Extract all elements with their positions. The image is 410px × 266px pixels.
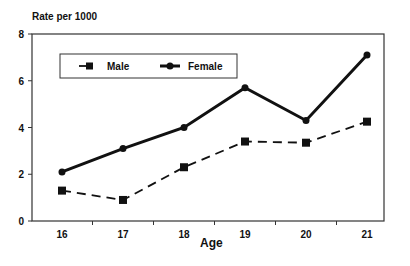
female-marker	[120, 145, 127, 152]
y-tick-label: 8	[18, 29, 24, 40]
male-marker	[119, 196, 127, 204]
male-marker	[363, 118, 371, 126]
female-marker	[364, 52, 371, 59]
y-tick-label: 2	[18, 169, 24, 180]
x-tick-label: 20	[300, 229, 312, 240]
legend-female-marker	[167, 63, 174, 70]
x-tick-label: 16	[56, 229, 68, 240]
legend-male-label: Male	[107, 61, 130, 72]
x-tick-label: 17	[117, 229, 129, 240]
female-marker	[303, 117, 310, 124]
y-tick-label: 4	[18, 123, 24, 134]
female-marker	[59, 168, 66, 175]
x-tick-label: 18	[178, 229, 190, 240]
female-marker	[181, 124, 188, 131]
legend: MaleFemale	[60, 54, 237, 78]
line-chart: 02468161718192021 MaleFemale	[0, 0, 410, 266]
male-marker	[58, 187, 66, 195]
legend-male-marker	[86, 63, 93, 70]
legend-female-label: Female	[188, 61, 223, 72]
female-marker	[242, 84, 249, 91]
male-marker	[302, 139, 310, 147]
x-tick-label: 21	[361, 229, 373, 240]
y-tick-label: 0	[18, 216, 24, 227]
male-marker	[241, 138, 249, 146]
male-line	[62, 122, 367, 200]
y-tick-label: 6	[18, 76, 24, 87]
male-marker	[180, 163, 188, 171]
x-tick-label: 19	[239, 229, 251, 240]
